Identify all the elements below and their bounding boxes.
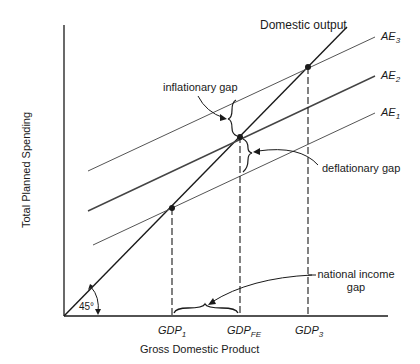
- x-tick-gdpfe: GDPFE: [227, 325, 261, 339]
- ae3-label-base: AE: [381, 30, 396, 42]
- arc-arrowhead-bottom-icon: [95, 309, 101, 315]
- national-income-gap-brace: [174, 304, 238, 313]
- x-tick-gdp3: GDP3: [295, 325, 323, 339]
- x-tick-gdpfe-sub: FE: [251, 330, 261, 339]
- deflationary-gap-arrowhead-icon: [253, 148, 260, 155]
- ae1-label-base: AE: [381, 106, 396, 118]
- inflationary-gap-label: inflationary gap: [163, 82, 238, 93]
- ae3-label: AE3: [381, 31, 400, 45]
- inflationary-gap-arrowhead-icon: [220, 114, 227, 121]
- national-income-gap-label: national income gap: [316, 269, 396, 293]
- ae2-line: [88, 76, 375, 211]
- x-tick-gdp1: GDP1: [158, 325, 186, 339]
- x-axis-label: Gross Domestic Product: [140, 344, 259, 355]
- x-tick-gdpfe-base: GDP: [227, 324, 251, 336]
- x-tick-gdp1-base: GDP: [158, 324, 182, 336]
- national-income-gap-pointer: [212, 275, 312, 302]
- equilibrium-point-gdp1: [169, 205, 175, 211]
- ae3-line: [88, 37, 375, 171]
- x-tick-gdp3-sub: 3: [319, 330, 323, 339]
- ae2-label-base: AE: [381, 69, 396, 81]
- national-income-gap-label-line1: national income: [316, 269, 396, 280]
- ae3-label-sub: 3: [396, 36, 400, 45]
- equilibrium-point-gdpfe: [237, 134, 243, 140]
- domestic-output-label: Domestic output: [260, 19, 347, 31]
- x-tick-gdp3-base: GDP: [295, 324, 319, 336]
- ae1-label-sub: 1: [396, 112, 400, 121]
- equilibrium-point-gdp3: [305, 64, 311, 70]
- ae1-label: AE1: [381, 107, 400, 121]
- ae2-label-sub: 2: [396, 75, 400, 84]
- deflationary-gap-label: deflationary gap: [322, 163, 400, 174]
- keynesian-cross-diagram: [0, 0, 420, 364]
- deflationary-gap-brace: [243, 139, 252, 172]
- ae1-line: [93, 113, 375, 245]
- national-income-gap-arrowhead-icon: [208, 298, 216, 305]
- deflationary-gap-pointer: [258, 150, 318, 165]
- national-income-gap-label-line2: gap: [316, 282, 396, 293]
- ae2-label: AE2: [381, 70, 400, 84]
- x-tick-gdp1-sub: 1: [182, 330, 186, 339]
- angle-label: 45°: [79, 302, 94, 312]
- y-axis-label: Total Planned Spending: [21, 112, 32, 228]
